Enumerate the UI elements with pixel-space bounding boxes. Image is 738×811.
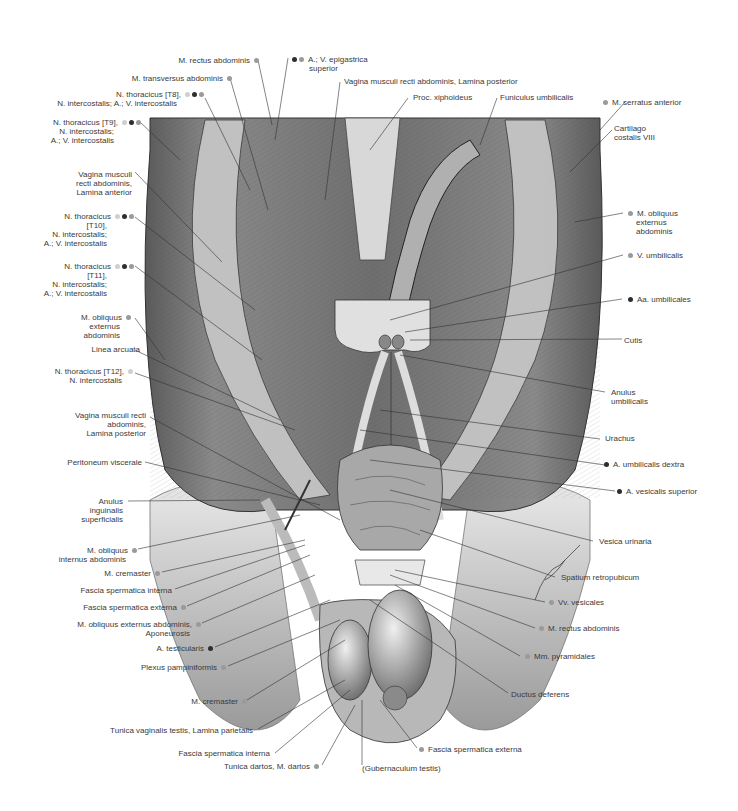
nerve-dot-icon: [128, 369, 133, 374]
label-n-thoracicus-t12: N. thoracicus [T12], N. intercostalis: [55, 367, 134, 385]
label-linea-arcuata: Linea arcuata: [92, 345, 140, 354]
label-n-thoracicus-t11: N. thoracicus [T11], N. intercostalis; A…: [44, 262, 135, 298]
muscle-dot-icon: [242, 699, 247, 704]
artery-dot-icon: [208, 646, 213, 651]
muscle-dot-icon: [525, 654, 530, 659]
label-proc-xiphoideus: Proc. xiphoideus: [413, 93, 472, 102]
label-peritoneum-viscerale: Peritoneum viscerale: [67, 458, 142, 467]
muscle-dot-icon: [254, 58, 259, 63]
label-urachus: Urachus: [605, 434, 635, 443]
label-mm-pyramidales: Mm. pyramidales: [524, 652, 595, 661]
vein-dot-icon: [199, 92, 204, 97]
muscle-dot-icon: [181, 605, 186, 610]
label-cutis: Cutis: [624, 336, 642, 345]
label-vesica-urinaria: Vesica urinaria: [599, 537, 651, 546]
nerve-dot-icon: [115, 214, 120, 219]
label-fascia-spermatica-externa-1: Fascia spermatica externa: [83, 603, 187, 612]
vein-dot-icon: [129, 264, 134, 269]
nerve-dot-icon: [115, 264, 120, 269]
label-tunica-dartos: Tunica dartos, M. dartos: [224, 762, 320, 771]
label-vagina-lamina-posterior-left: Vagina musculi recti abdominis, Lamina p…: [75, 411, 146, 438]
muscle-dot-icon: [155, 571, 160, 576]
artery-dot-icon: [628, 297, 633, 302]
artery-dot-icon: [604, 462, 609, 467]
anatomical-figure: M. rectus abdominis M. transversus abdom…: [0, 0, 738, 811]
label-m-cremaster-1: M. cremaster: [104, 569, 161, 578]
artery-dot-icon: [122, 214, 127, 219]
label-a-vesicalis-superior: A. vesicalis superior: [616, 487, 697, 496]
muscle-dot-icon: [196, 622, 201, 627]
label-v-umbilicalis: V. umbilicalis: [627, 251, 683, 260]
muscle-dot-icon: [419, 747, 424, 752]
label-fascia-spermatica-interna-2: Fascia spermatica interna: [178, 749, 270, 758]
label-m-obliquus-internus: M. obliquus internus abdominis: [59, 546, 138, 564]
artery-dot-icon: [292, 57, 297, 62]
vein-dot-icon: [129, 214, 134, 219]
label-a-umbilicalis-dextra: A. umbilicalis dextra: [603, 460, 684, 469]
label-vagina-lamina-posterior-top: Vagina musculi recti abdominis, Lamina p…: [344, 77, 518, 86]
label-m-transversus-abdominis: M. transversus abdominis: [132, 74, 233, 83]
muscle-dot-icon: [126, 315, 131, 320]
label-funiculus-umbilicalis: Funiculus umbilicalis: [500, 93, 573, 102]
artery-dot-icon: [122, 264, 127, 269]
vein-dot-icon: [136, 120, 141, 125]
label-aa-umbilicales: Aa. umbilicales: [627, 295, 691, 304]
label-tunica-vaginalis: Tunica vaginalis testis, Lamina parietal…: [110, 726, 253, 735]
label-a-v-epigastrica-superior: A.; V. epigastrica superior: [291, 55, 368, 73]
label-m-serratus-anterior: M. serratus anterior: [602, 98, 681, 107]
label-spatium-retropubicum: Spatium retropubicum: [561, 573, 639, 582]
muscle-dot-icon: [603, 100, 608, 105]
muscle-dot-icon: [628, 211, 633, 216]
label-m-obliquus-externus-aponeurosis: M. obliquus externus abdominis, Aponeuro…: [77, 620, 202, 638]
artery-dot-icon: [129, 120, 134, 125]
muscle-dot-icon: [539, 626, 544, 631]
vein-dot-icon: [628, 253, 633, 258]
vein-dot-icon: [299, 57, 304, 62]
label-n-thoracicus-t9: N. thoracicus [T9], N. intercostalis; A.…: [51, 118, 142, 145]
muscle-dot-icon: [227, 76, 232, 81]
label-ductus-deferens: Ductus deferens: [511, 690, 569, 699]
label-plexus-pampiniformis: Plexus pampiniformis: [141, 663, 227, 672]
label-gubernaculum-testis: (Gubernaculum testis): [362, 764, 441, 773]
vein-dot-icon: [549, 600, 554, 605]
nerve-dot-icon: [122, 120, 127, 125]
label-vagina-lamina-anterior: Vagina musculi recti abdominis, Lamina a…: [76, 170, 132, 197]
vein-dot-icon: [221, 665, 226, 670]
nerve-dot-icon: [185, 92, 190, 97]
label-anulus-umbilicalis: Anulus umbilicalis: [611, 388, 648, 406]
artery-dot-icon: [192, 92, 197, 97]
label-m-rectus-abdominis-bottom: M. rectus abdominis: [538, 624, 620, 633]
muscle-dot-icon: [314, 764, 319, 769]
label-n-thoracicus-t8: N. thoracicus [T8], N. intercostalis; A.…: [57, 90, 205, 108]
label-m-obliquus-externus-left: M. obliquus externus abdominis: [81, 313, 132, 340]
artery-dot-icon: [617, 489, 622, 494]
label-m-cremaster-2: M. cremaster: [191, 697, 248, 706]
muscle-dot-icon: [132, 548, 137, 553]
label-vv-vesicales: Vv. vesicales: [548, 598, 604, 607]
label-a-testicularis: A. testicularis: [156, 644, 214, 653]
label-cartilago-costalis-viii: Cartilago costalis VIII: [614, 124, 655, 142]
label-m-rectus-abdominis-top: M. rectus abdominis: [178, 56, 260, 65]
label-anulus-inguinalis: Anulus inguinalis superficialis: [81, 497, 123, 524]
label-n-thoracicus-t10: N. thoracicus [T10], N. intercostalis; A…: [44, 212, 135, 248]
label-fascia-spermatica-externa-2: Fascia spermatica externa: [418, 745, 522, 754]
label-fascia-spermatica-interna-1: Fascia spermatica interna: [80, 586, 172, 595]
label-m-obliquus-externus-right: M. obliquus externus abdominis: [627, 209, 678, 236]
